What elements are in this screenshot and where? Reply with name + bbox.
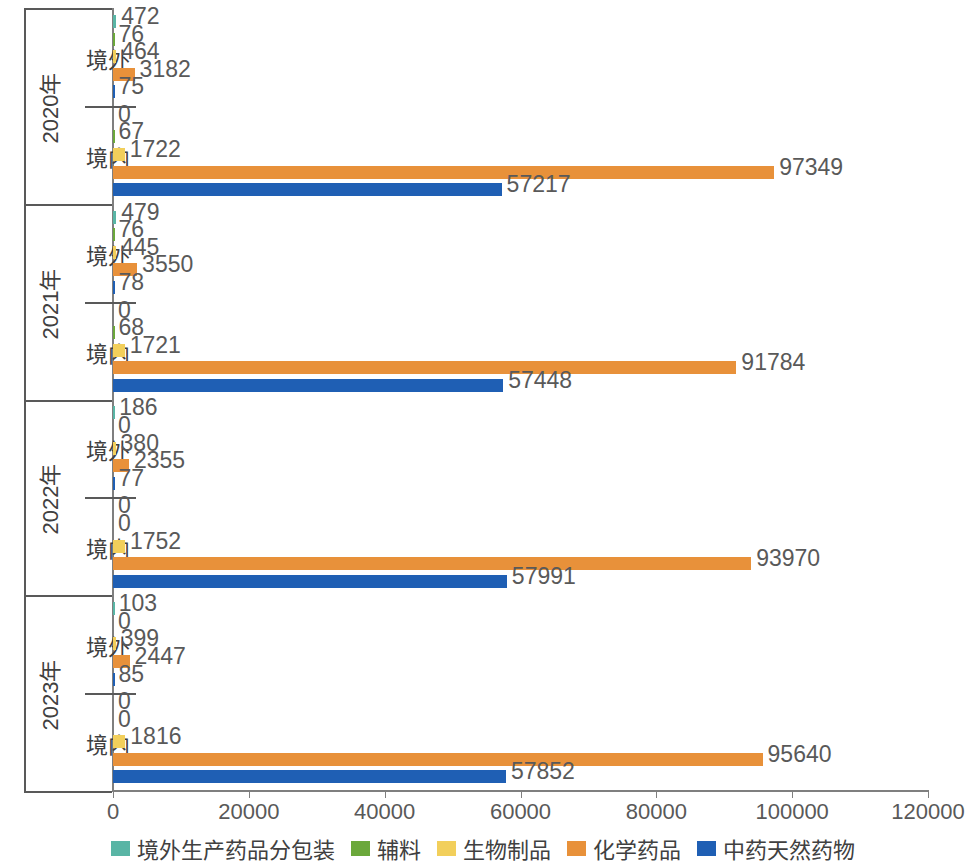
bar-value-label: 97349 bbox=[779, 161, 843, 174]
bar bbox=[113, 477, 115, 490]
category-axis: 2020年境外境内2021年境外境内2022年境外境内2023年境外境内 bbox=[24, 8, 112, 791]
year-separator bbox=[24, 595, 112, 597]
x-axis-tick-label: 40000 bbox=[354, 799, 415, 825]
bar-value-label: 0 bbox=[118, 713, 131, 726]
bar bbox=[113, 735, 125, 748]
bar bbox=[113, 166, 774, 179]
legend-label: 化学药品 bbox=[593, 832, 681, 861]
bar bbox=[113, 246, 116, 259]
bar bbox=[113, 228, 115, 241]
bar bbox=[113, 770, 506, 783]
bar bbox=[113, 602, 115, 615]
bar bbox=[113, 50, 116, 63]
x-axis-tick-label: 60000 bbox=[490, 799, 551, 825]
bar-value-label: 1752 bbox=[130, 535, 181, 548]
bar bbox=[113, 15, 116, 28]
x-axis-tick-label: 0 bbox=[107, 799, 119, 825]
bar-value-label: 3182 bbox=[140, 63, 191, 76]
bar bbox=[113, 442, 116, 455]
legend-item[interactable]: 化学药品 bbox=[567, 832, 681, 861]
bar-value-label: 3550 bbox=[142, 258, 193, 271]
legend-item[interactable]: 生物制品 bbox=[437, 832, 551, 861]
bar bbox=[113, 575, 507, 588]
x-axis-tick bbox=[521, 790, 522, 798]
legend-swatch-icon bbox=[437, 841, 456, 856]
plot-area: 4727646431827506717229734957217479764453… bbox=[113, 8, 928, 791]
year-separator bbox=[24, 791, 112, 793]
chart-legend: 境外生产药品分包装辅料生物制品化学药品中药天然药物 bbox=[0, 832, 966, 861]
bar-value-label: 75 bbox=[119, 80, 145, 93]
x-axis-tick-label: 80000 bbox=[626, 799, 687, 825]
bar-value-label: 57852 bbox=[511, 765, 575, 778]
bar bbox=[113, 406, 115, 419]
category-frame-edge bbox=[24, 204, 26, 400]
legend-swatch-icon bbox=[567, 841, 586, 856]
bar bbox=[113, 33, 115, 46]
x-axis-tick bbox=[249, 790, 250, 798]
legend-label: 境外生产药品分包装 bbox=[137, 832, 335, 861]
legend-label: 辅料 bbox=[377, 832, 421, 861]
bar bbox=[113, 540, 125, 553]
x-axis-tick bbox=[656, 790, 657, 798]
bar-value-label: 95640 bbox=[768, 748, 832, 761]
bar-value-label: 91784 bbox=[741, 356, 805, 369]
legend-label: 生物制品 bbox=[463, 832, 551, 861]
x-axis-tick bbox=[385, 790, 386, 798]
category-frame-edge bbox=[24, 595, 26, 791]
bar-value-label: 57991 bbox=[512, 570, 576, 583]
bar-value-label: 1722 bbox=[130, 143, 181, 156]
x-axis-tick bbox=[113, 790, 114, 798]
x-axis-tick-label: 20000 bbox=[218, 799, 279, 825]
year-axis-label: 2022年 bbox=[32, 456, 64, 542]
category-frame-edge bbox=[24, 400, 26, 596]
year-axis-label: 2023年 bbox=[32, 652, 64, 738]
category-frame-edge bbox=[24, 8, 26, 204]
x-axis-tick bbox=[792, 790, 793, 798]
bar-value-label: 85 bbox=[119, 668, 145, 681]
bar bbox=[113, 85, 115, 98]
bar-chart: 2020年境外境内2021年境外境内2022年境外境内2023年境外境内 472… bbox=[0, 0, 966, 861]
bar bbox=[113, 183, 502, 196]
bar-value-label: 1721 bbox=[130, 339, 181, 352]
bar bbox=[113, 361, 736, 374]
bar bbox=[113, 148, 125, 161]
x-axis-tick bbox=[928, 790, 929, 798]
year-separator bbox=[24, 204, 112, 206]
year-separator bbox=[24, 8, 112, 10]
bar-value-label: 78 bbox=[119, 276, 145, 289]
legend-label: 中药天然药物 bbox=[723, 832, 855, 861]
bar bbox=[113, 557, 751, 570]
year-axis-label: 2021年 bbox=[32, 261, 64, 347]
legend-item[interactable]: 境外生产药品分包装 bbox=[111, 832, 335, 861]
bar-value-label: 93970 bbox=[756, 552, 820, 565]
bar bbox=[113, 211, 116, 224]
bar bbox=[113, 281, 115, 294]
bar-value-label: 77 bbox=[119, 472, 145, 485]
year-axis-label: 2020年 bbox=[32, 65, 64, 151]
bar bbox=[113, 326, 115, 339]
bar bbox=[113, 637, 116, 650]
legend-swatch-icon bbox=[111, 841, 130, 856]
bar bbox=[113, 130, 115, 143]
bar-value-label: 57448 bbox=[508, 374, 572, 387]
legend-swatch-icon bbox=[697, 841, 716, 856]
bar-value-label: 0 bbox=[118, 517, 131, 530]
year-separator bbox=[24, 400, 112, 402]
bar-value-label: 57217 bbox=[507, 178, 571, 191]
bar bbox=[113, 673, 115, 686]
bar bbox=[113, 379, 503, 392]
bar bbox=[113, 344, 125, 357]
legend-swatch-icon bbox=[351, 841, 370, 856]
legend-item[interactable]: 辅料 bbox=[351, 832, 421, 861]
legend-item[interactable]: 中药天然药物 bbox=[697, 832, 855, 861]
x-axis-tick-label: 120000 bbox=[891, 799, 964, 825]
bar bbox=[113, 753, 763, 766]
x-axis-tick-label: 100000 bbox=[755, 799, 828, 825]
bar-value-label: 1816 bbox=[130, 730, 181, 743]
